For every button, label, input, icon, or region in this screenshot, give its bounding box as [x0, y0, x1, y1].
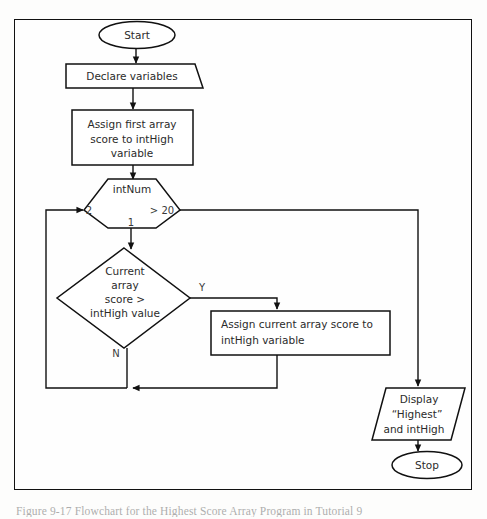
assign-first-line-3: variable: [111, 147, 153, 159]
connector-decision-yes-to-assign-current: [190, 298, 277, 309]
display-line-3: and intHigh: [384, 423, 445, 435]
node-loop-hexagon[interactable]: intNum 2 > 20 1: [84, 179, 180, 228]
compare-line-4: intHigh value: [90, 307, 160, 319]
node-stop[interactable]: Stop: [392, 452, 462, 479]
loop-condition-label: > 20: [150, 205, 174, 216]
figure-page: Start Declare variables Assign first arr…: [0, 0, 487, 519]
display-line-2: “Highest”: [392, 408, 443, 420]
compare-line-1: Current: [105, 265, 144, 277]
node-assign-current-array-score[interactable]: Assign current array score to intHigh va…: [211, 311, 390, 355]
loop-start-label: 1: [128, 217, 134, 228]
figure-caption: Figure 9-17 Flowchart for the Highest Sc…: [16, 505, 476, 517]
assign-current-line-1: Assign current array score to: [221, 318, 373, 330]
compare-no-label: N: [112, 348, 119, 359]
start-label: Start: [124, 29, 150, 41]
assign-first-line-1: Assign first array: [87, 118, 176, 130]
declare-variables-label: Declare variables: [86, 70, 177, 82]
node-start[interactable]: Start: [99, 22, 175, 49]
node-compare-decision[interactable]: Current array score > intHigh value Y N: [57, 248, 206, 359]
loop-step-label: 2: [86, 205, 92, 216]
compare-yes-label: Y: [198, 282, 206, 293]
node-display-output[interactable]: Display “Highest” and intHigh: [372, 388, 465, 440]
loop-variable-label: intNum: [113, 183, 151, 195]
node-assign-first-array-score[interactable]: Assign first array score to intHigh vari…: [72, 110, 193, 165]
assign-current-line-2: intHigh variable: [221, 334, 305, 346]
stop-label: Stop: [415, 459, 439, 471]
connector-assign-current-to-merge: [133, 355, 277, 388]
flowchart-canvas: Start Declare variables Assign first arr…: [0, 0, 487, 519]
assign-first-line-2: score to intHigh: [90, 133, 173, 145]
compare-line-2: array: [111, 279, 139, 291]
compare-line-3: score >: [105, 293, 145, 305]
connectors: [46, 48, 418, 451]
node-declare-variables[interactable]: Declare variables: [66, 64, 203, 88]
display-line-1: Display: [400, 393, 439, 405]
